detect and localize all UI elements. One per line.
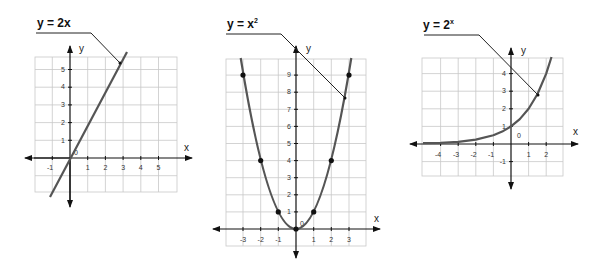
leader-point [537,94,540,97]
x-tick-label: 2 [329,236,333,243]
y-tick-label: 1 [61,137,65,144]
y-tick-label: 3 [502,87,506,94]
y-axis-label: y [79,43,84,54]
x-tick-label: -1 [47,164,53,171]
y-tick-label: 6 [287,123,291,130]
curve-exponential [423,57,552,143]
y-tick-label: 1 [287,208,291,215]
x-tick-label: -3 [240,236,246,243]
chart-exponential: -4 -3 -2 -1 1 2 -1 1 2 3 4 0 x y y = 2x [410,18,578,189]
x-tick-label: -3 [453,151,459,158]
x-axis-label: x [374,213,379,224]
y-tick-label: 2 [61,119,65,126]
y-tick-label: 9 [287,71,291,78]
y-tick-label: 8 [287,88,291,95]
x-tick-label: -2 [258,236,264,243]
leader-line-linear [36,33,120,63]
x-tick-label: 3 [121,164,125,171]
y-tick-label: 5 [61,66,65,73]
x-tick-label: 3 [347,236,351,243]
x-tick-label: -1 [488,151,494,158]
x-tick-label: 1 [527,151,531,158]
x-tick-label: 5 [157,164,161,171]
x-tick-label: 2 [103,164,107,171]
chart-title-exponential: y = 2x [423,18,454,32]
leader-line-quadratic [226,34,345,98]
y-tick-label: -1 [500,158,506,165]
chart-title-linear: y = 2x [37,16,71,30]
grid-exponential [422,58,563,176]
x-tick-label: -4 [435,151,441,158]
x-tick-label: 1 [86,164,90,171]
leader-point [119,62,122,65]
x-tick-label: 1 [312,236,316,243]
x-axis-label: x [573,126,578,137]
y-axis-label: y [306,43,311,54]
grid-linear [35,57,177,192]
x-axis-label: x [184,142,189,153]
y-tick-label: 4 [287,157,291,164]
y-tick-label: 3 [287,174,291,181]
leader-line-exponential [424,35,538,95]
x-tick-label: 2 [544,151,548,158]
x-tick-label: -2 [470,151,476,158]
origin-label: 0 [517,132,521,139]
leader-point [344,97,347,100]
y-tick-label: 3 [61,101,65,108]
y-tick-label: 4 [61,83,65,90]
y-tick-label: 5 [287,140,291,147]
x-tick-label: 4 [139,164,143,171]
y-axis-label: y [521,45,526,56]
y-tick-label: 7 [287,106,291,113]
y-tick-label: 4 [502,70,506,77]
x-tick-label: -1 [275,236,281,243]
chart-quadratic: -3 -2 -1 1 2 3 1 2 3 4 5 6 7 8 9 0 x y y… [213,17,380,258]
y-tick-label: 2 [287,191,291,198]
chart-linear: -1 1 2 3 4 5 1 2 3 4 5 0 x y y = 2x [25,16,192,207]
y-tick-label: 2 [502,105,506,112]
chart-title-quadratic: y = x2 [227,17,258,31]
